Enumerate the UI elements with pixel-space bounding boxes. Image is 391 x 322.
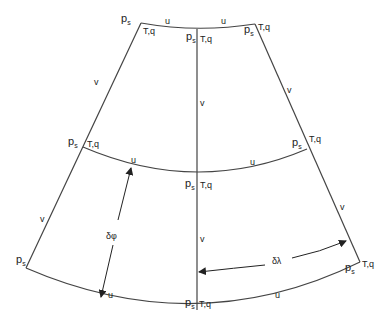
tq-mid-left: T,q: [87, 139, 99, 149]
v-upper-center: v: [200, 98, 205, 108]
middle-latitude: [83, 147, 307, 172]
tq-mid-center: T,q: [200, 180, 212, 190]
delta-lambda-arrow-right: [292, 241, 346, 258]
ps-mid-center: ps: [185, 177, 195, 191]
v-lower-left: v: [40, 214, 45, 224]
ps-bot-right: ps: [345, 261, 355, 275]
u-top-right: u: [221, 16, 226, 26]
tq-mid-right: T,q: [309, 134, 321, 144]
right-meridian: [255, 24, 360, 262]
u-bot-left: u: [108, 290, 113, 300]
top-latitude: [141, 23, 255, 28]
bottom-latitude: [26, 262, 360, 304]
ps-top-left: ps: [121, 12, 131, 26]
delta-phi-arrow-up: [118, 168, 131, 220]
ps-bot-center: ps: [185, 296, 195, 310]
v-upper-left: v: [94, 77, 99, 87]
delta-lambda-label: δλ: [272, 256, 282, 266]
left-meridian: [26, 23, 141, 268]
u-mid-left: u: [131, 155, 136, 165]
v-lower-center: v: [200, 234, 205, 244]
u-mid-right: u: [250, 157, 255, 167]
v-upper-right: v: [287, 85, 292, 95]
ps-top-center: ps: [186, 30, 196, 44]
ps-mid-left: ps: [68, 135, 78, 149]
tq-bot-center: T,q: [199, 299, 211, 309]
ps-bot-left: ps: [16, 253, 26, 267]
u-bot-right: u: [275, 290, 280, 300]
ps-top-right: ps: [244, 23, 254, 37]
u-top-left: u: [165, 16, 170, 26]
grid-diagram: ps T,q u u ps T,q ps T,q v v v ps T,q u …: [0, 0, 391, 322]
tq-top-center: T,q: [200, 34, 212, 44]
ps-mid-right: ps: [292, 136, 302, 150]
tq-top-left: T,q: [143, 26, 155, 36]
tq-top-right: T,q: [258, 22, 270, 32]
v-lower-right: v: [340, 202, 345, 212]
delta-phi-label: δφ: [106, 231, 117, 241]
tq-bot-right: T,q: [362, 259, 374, 269]
delta-lambda-arrow-left: [199, 265, 265, 272]
